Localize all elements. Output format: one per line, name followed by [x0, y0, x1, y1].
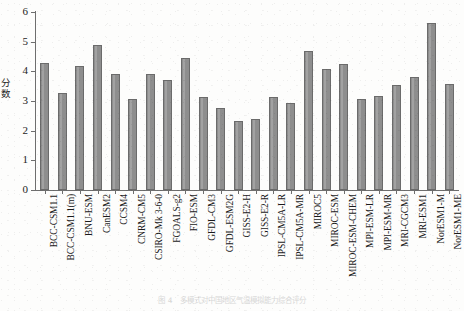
x-tick-mark [133, 190, 134, 194]
bar [251, 119, 260, 190]
bar [163, 80, 172, 190]
x-tick-label: IPSL-CM5A-MR [295, 194, 305, 260]
x-tick-label: FIO-ESM [189, 194, 199, 231]
x-tick-label: CCSM4 [119, 194, 129, 225]
x-tick-label: MIROC5 [313, 194, 323, 229]
x-tick-mark [150, 190, 151, 194]
y-tick-label: 2 [8, 125, 28, 136]
x-tick-mark [309, 190, 310, 194]
x-tick-mark [98, 190, 99, 194]
bar [146, 74, 155, 190]
bar [216, 108, 225, 190]
x-tick-mark [168, 190, 169, 194]
bar [234, 121, 243, 190]
bar [286, 103, 295, 190]
y-tick-label: 5 [8, 36, 28, 47]
x-tick-label: GISS-E2-H [242, 194, 252, 237]
x-tick-label: GISS-E2-R [260, 194, 270, 237]
x-tick-label: MRI-CGCM3 [400, 194, 410, 247]
bar [427, 23, 436, 190]
bar [128, 99, 137, 190]
bar-chart-figure: 分数 0123456 BCC-CSM1.1BCC-CSM1.1(m)BNU-ES… [0, 0, 464, 311]
bar [269, 97, 278, 190]
y-tick-label: 4 [8, 65, 28, 76]
x-tick-label: NorESM1-ME [453, 194, 463, 249]
x-tick-mark [203, 190, 204, 194]
x-tick-mark [414, 190, 415, 194]
x-tick-mark [185, 190, 186, 194]
x-tick-label: GFDL-ESM2G [225, 194, 235, 252]
x-tick-label: BCC-CSM1.1 [49, 194, 59, 247]
y-tick-mark [31, 190, 36, 191]
bar [40, 63, 49, 190]
x-axis-line [35, 190, 459, 191]
x-tick-mark [80, 190, 81, 194]
x-tick-mark [361, 190, 362, 194]
x-tick-label: BNU-ESM [84, 194, 94, 236]
x-tick-label: FGOALS-g2 [172, 194, 182, 243]
x-tick-label: GFDL-CM3 [207, 194, 217, 241]
figure-caption: 图 4 多模式对中国地区气温模拟能力综合评分 [0, 296, 464, 305]
x-tick-mark [221, 190, 222, 194]
bar [410, 77, 419, 190]
x-tick-label: CanESM2 [102, 194, 112, 233]
x-tick-mark [432, 190, 433, 194]
bar [392, 85, 401, 190]
x-tick-mark [379, 190, 380, 194]
bar [75, 66, 84, 190]
y-tick-label: 6 [8, 6, 28, 17]
bar [357, 99, 366, 190]
x-tick-label: MIROC-ESM [330, 194, 340, 247]
y-tick-label: 0 [8, 184, 28, 195]
x-tick-mark [326, 190, 327, 194]
x-tick-label: MPI-ESM-MR [383, 194, 393, 251]
y-tick-label: 1 [8, 154, 28, 165]
bar [304, 51, 313, 190]
x-tick-mark [115, 190, 116, 194]
x-tick-mark [344, 190, 345, 194]
bar [374, 96, 383, 190]
bar [322, 69, 331, 190]
x-tick-label: MIROC-ESM-CHEM [348, 194, 358, 277]
x-tick-mark [273, 190, 274, 194]
bar [199, 97, 208, 190]
bar [111, 74, 120, 190]
x-tick-label: IPSL-CM5A-LR [277, 194, 287, 257]
x-tick-mark [396, 190, 397, 194]
bar [339, 64, 348, 190]
x-tick-label: NorESM1-M [436, 194, 446, 244]
x-tick-mark [62, 190, 63, 194]
x-tick-mark [45, 190, 46, 194]
x-tick-label: CSIRO-Mk 3-6-0 [154, 194, 164, 260]
plot-area [36, 12, 458, 190]
x-tick-mark [238, 190, 239, 194]
bar [58, 93, 67, 190]
bar [93, 45, 102, 190]
bar [181, 58, 190, 190]
x-tick-label: CNRM-CM5 [137, 194, 147, 244]
x-tick-mark [449, 190, 450, 194]
x-tick-label: MRI-ESM1 [418, 194, 428, 239]
x-tick-label: BCC-CSM1.1(m) [66, 194, 76, 261]
x-tick-mark [256, 190, 257, 194]
x-tick-mark [291, 190, 292, 194]
y-tick-label: 3 [8, 95, 28, 106]
x-tick-label: MPI-ESM-LR [365, 194, 375, 248]
bar [445, 84, 454, 190]
